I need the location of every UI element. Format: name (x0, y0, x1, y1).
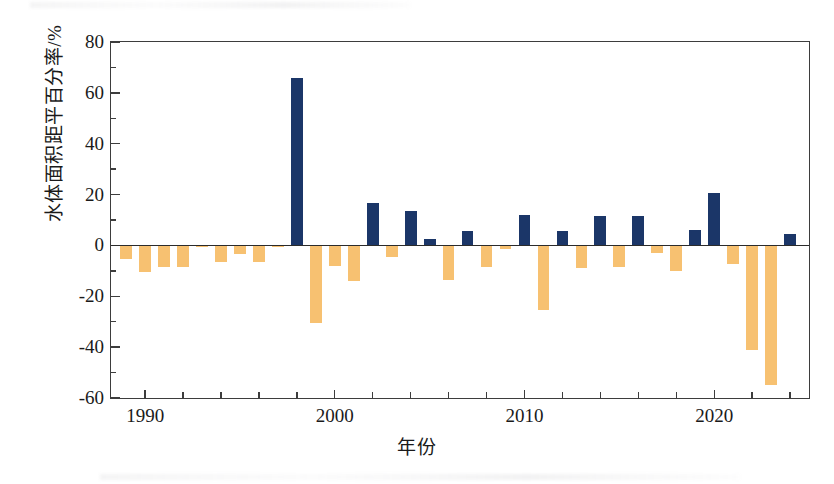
y-tick-minor-70 (111, 67, 116, 68)
bar-2014 (594, 216, 606, 245)
bar-2020 (708, 193, 720, 245)
zero-line (111, 245, 809, 247)
x-tick-2000 (334, 390, 335, 398)
y-tick-40 (111, 143, 120, 144)
x-tick-2024 (789, 392, 790, 398)
x-tick-1990 (144, 390, 145, 398)
y-tick-label-0: 0 (95, 234, 105, 256)
y-tick-label-60: 60 (85, 82, 104, 104)
chart-figure: 水体面积距平百分率/% -60-40-200204060801990200020… (0, 0, 834, 484)
bar-1998 (291, 78, 303, 246)
bar-1994 (215, 245, 227, 262)
scan-artifact-bottom (100, 474, 740, 480)
bar-2007 (462, 231, 474, 245)
bar-1990 (139, 245, 151, 272)
plot-area: -60-40-200204060801990200020102020 (110, 41, 810, 399)
x-tick-2020 (714, 390, 715, 398)
bar-2010 (519, 215, 531, 246)
x-axis-title: 年份 (0, 432, 834, 459)
x-tick-label-2020: 2020 (695, 405, 733, 427)
plot-inner (111, 42, 809, 398)
bar-2004 (405, 211, 417, 245)
y-tick-label-20: 20 (85, 184, 104, 206)
bar-2022 (746, 245, 758, 349)
x-tick-2012 (562, 392, 563, 398)
y-tick-minor-50 (111, 118, 116, 119)
y-tick--40 (111, 346, 120, 347)
y-tick--20 (111, 296, 120, 297)
bar-2013 (576, 245, 588, 268)
y-tick-label-80: 80 (85, 31, 104, 53)
bar-2023 (765, 245, 777, 385)
y-tick-minor--10 (111, 270, 116, 271)
x-tick-2018 (676, 392, 677, 398)
bar-2001 (348, 245, 360, 281)
bar-2015 (613, 245, 625, 267)
x-tick-2022 (751, 392, 752, 398)
y-tick-label--60: -60 (79, 387, 104, 409)
x-tick-label-2010: 2010 (505, 405, 543, 427)
scan-artifact-top (30, 2, 410, 8)
y-tick-minor--50 (111, 372, 116, 373)
bar-1989 (120, 245, 132, 259)
x-tick-2014 (600, 392, 601, 398)
y-tick-label--20: -20 (79, 285, 104, 307)
y-axis-title: 水体面积距平百分率/% (39, 0, 66, 254)
bar-2021 (727, 245, 739, 264)
bar-1991 (158, 245, 170, 267)
y-tick--60 (111, 397, 120, 398)
x-tick-2006 (448, 392, 449, 398)
bar-2012 (557, 231, 569, 245)
x-tick-2010 (524, 390, 525, 398)
bar-2016 (632, 216, 644, 245)
bar-2018 (670, 245, 682, 270)
x-tick-2004 (410, 392, 411, 398)
bar-2000 (329, 245, 341, 265)
y-tick-60 (111, 92, 120, 93)
x-tick-1992 (182, 392, 183, 398)
bar-2019 (689, 230, 701, 245)
bar-2017 (651, 245, 663, 253)
y-tick-minor-30 (111, 168, 116, 169)
bar-2008 (481, 245, 493, 267)
y-tick-label--40: -40 (79, 336, 104, 358)
bar-2002 (367, 203, 379, 245)
bar-1999 (310, 245, 322, 323)
bar-1995 (234, 245, 246, 254)
x-tick-2008 (486, 392, 487, 398)
y-tick-minor--30 (111, 321, 116, 322)
y-tick-20 (111, 194, 120, 195)
x-tick-1996 (258, 392, 259, 398)
x-tick-1994 (220, 392, 221, 398)
x-tick-label-1990: 1990 (126, 405, 164, 427)
y-tick-minor-10 (111, 219, 116, 220)
bar-1992 (177, 245, 189, 267)
x-tick-label-2000: 2000 (316, 405, 354, 427)
y-tick-label-40: 40 (85, 133, 104, 155)
x-tick-2002 (372, 392, 373, 398)
x-tick-2016 (638, 392, 639, 398)
bar-2006 (443, 245, 455, 279)
bar-2003 (386, 245, 398, 256)
bar-1996 (253, 245, 265, 262)
x-tick-1998 (296, 392, 297, 398)
y-tick-80 (111, 41, 120, 42)
bar-2011 (538, 245, 550, 310)
